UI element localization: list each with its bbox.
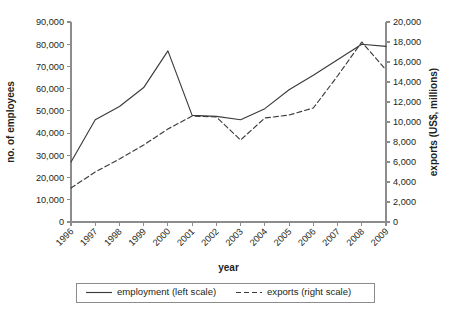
right-tick-label: 2,000 xyxy=(393,197,416,207)
left-tick-label: 80,000 xyxy=(36,40,64,50)
left-tick-label: 30,000 xyxy=(36,151,64,161)
right-tick-label: 6,000 xyxy=(393,157,416,167)
right-tick-label: 12,000 xyxy=(393,97,421,107)
x-tick-label: 2000 xyxy=(151,226,173,248)
left-tick-label: 90,000 xyxy=(36,17,64,27)
x-tick-label: 2002 xyxy=(199,226,221,248)
right-tick-label: 18,000 xyxy=(393,37,421,47)
x-axis-title: year xyxy=(218,262,239,273)
chart-legend: employment (left scale)exports (right sc… xyxy=(76,283,374,302)
left-tick-label: 60,000 xyxy=(36,84,64,94)
series-line-exports xyxy=(71,42,386,188)
right-axis: 02,0004,0006,0008,00010,00012,00014,0001… xyxy=(386,17,439,227)
left-tick-label: 70,000 xyxy=(36,62,64,72)
x-tick-label: 2005 xyxy=(272,226,294,248)
x-tick-label: 2008 xyxy=(345,226,367,248)
dual-axis-line-chart: 010,00020,00030,00040,00050,00060,00070,… xyxy=(0,0,450,315)
series-line-employment xyxy=(71,44,386,162)
chart-figure: 010,00020,00030,00040,00050,00060,00070,… xyxy=(0,0,450,315)
x-tick-label: 1999 xyxy=(127,226,149,248)
x-tick-label: 1998 xyxy=(102,226,124,248)
right-tick-label: 20,000 xyxy=(393,17,421,27)
left-tick-label: 50,000 xyxy=(36,106,64,116)
x-axis: 1996199719981999200020012002200320042005… xyxy=(54,222,391,273)
right-tick-label: 10,000 xyxy=(393,117,421,127)
right-tick-label: 8,000 xyxy=(393,137,416,147)
series-layer xyxy=(71,42,386,188)
x-tick-label: 2006 xyxy=(296,226,318,248)
x-tick-label: 2003 xyxy=(223,226,245,248)
left-axis-ticks: 010,00020,00030,00040,00050,00060,00070,… xyxy=(36,17,71,227)
right-axis-title: exports (US$, millions) xyxy=(428,68,439,176)
x-tick-label: 1997 xyxy=(78,226,100,248)
x-axis-ticks: 1996199719981999200020012002200320042005… xyxy=(54,222,391,248)
left-tick-label: 0 xyxy=(59,217,64,227)
right-tick-label: 0 xyxy=(393,217,398,227)
right-tick-label: 14,000 xyxy=(393,77,421,87)
left-tick-label: 20,000 xyxy=(36,173,64,183)
x-tick-label: 1996 xyxy=(54,226,76,248)
left-axis-title: no. of employees xyxy=(5,81,16,163)
left-tick-label: 10,000 xyxy=(36,195,64,205)
x-tick-label: 2001 xyxy=(175,226,197,248)
legend-label-1: employment (left scale) xyxy=(117,286,216,297)
left-axis: 010,00020,00030,00040,00050,00060,00070,… xyxy=(5,17,71,227)
right-tick-label: 4,000 xyxy=(393,177,416,187)
legend-label-2: exports (right scale) xyxy=(267,286,351,297)
right-tick-label: 16,000 xyxy=(393,57,421,67)
x-tick-label: 2004 xyxy=(248,226,270,248)
x-tick-label: 2009 xyxy=(369,226,391,248)
x-tick-label: 2007 xyxy=(320,226,342,248)
right-axis-ticks: 02,0004,0006,0008,00010,00012,00014,0001… xyxy=(386,17,421,227)
left-tick-label: 40,000 xyxy=(36,128,64,138)
